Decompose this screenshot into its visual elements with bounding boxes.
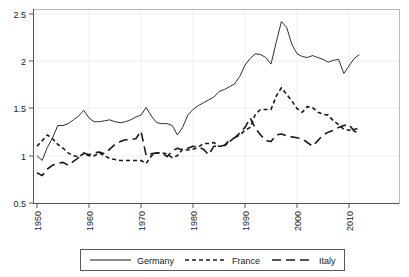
- xtick-label-2000: 2000: [293, 211, 303, 231]
- legend: Germany France Italy: [81, 250, 345, 271]
- legend-label-italy: Italy: [319, 256, 336, 266]
- ytick-label-2: 2: [21, 57, 26, 67]
- ytick-label-1: 1: [21, 152, 26, 162]
- line-chart-figure: 2.5 2 1.5 1 0.5 1950 1960 1970 1980 1990…: [0, 0, 409, 277]
- xtick-label-1990: 1990: [241, 211, 251, 231]
- figure-background: [0, 0, 409, 277]
- legend-label-france: France: [232, 256, 260, 266]
- xtick-label-1960: 1960: [85, 211, 95, 231]
- xtick-label-1970: 1970: [137, 211, 147, 231]
- xtick-label-1950: 1950: [33, 211, 43, 231]
- xtick-label-2010: 2010: [345, 211, 355, 231]
- xtick-label-1980: 1980: [189, 211, 199, 231]
- ytick-label-2.5: 2.5: [13, 10, 26, 20]
- ytick-label-1.5: 1.5: [13, 104, 26, 114]
- ytick-label-0.5: 0.5: [13, 199, 26, 209]
- legend-label-germany: Germany: [137, 256, 175, 266]
